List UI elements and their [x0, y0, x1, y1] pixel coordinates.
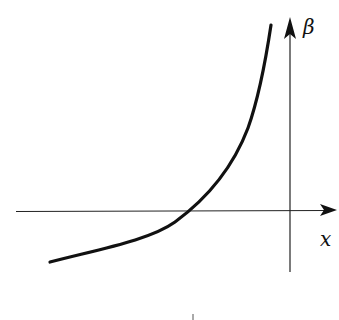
x-axis — [16, 211, 328, 212]
diagram-canvas: β x — [0, 0, 339, 320]
beta-curve — [50, 25, 271, 262]
x-axis-label: x — [320, 227, 331, 251]
y-axis-label: β — [302, 15, 315, 39]
